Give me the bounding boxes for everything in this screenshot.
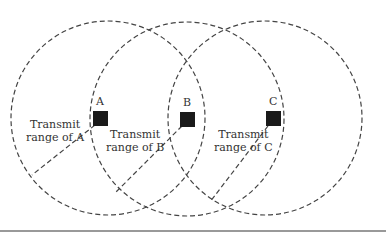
node-c	[266, 111, 281, 126]
node-label-c: C	[269, 95, 277, 108]
transmit-range-diagram: A B C Transmit range of A Transmit range…	[0, 0, 386, 235]
node-b	[180, 112, 195, 127]
range-label-a: Transmit range of A	[26, 118, 84, 144]
node-label-a: A	[96, 95, 104, 108]
bottom-divider	[0, 230, 386, 232]
node-a	[93, 111, 108, 126]
node-label-b: B	[183, 96, 191, 109]
range-label-c: Transmit range of C	[214, 128, 273, 154]
range-label-b: Transmit range of B	[106, 128, 164, 154]
range-circle-c	[168, 21, 362, 215]
